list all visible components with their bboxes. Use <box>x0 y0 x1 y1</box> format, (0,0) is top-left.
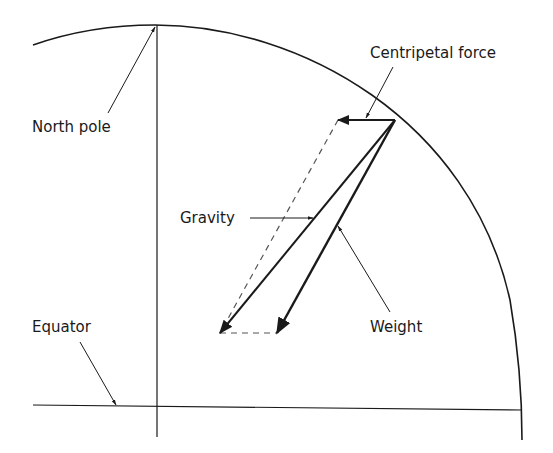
earth-surface-arc <box>33 25 522 440</box>
gravity-vector <box>220 120 395 333</box>
north-pole-leader <box>108 27 155 113</box>
weight-label: Weight <box>370 318 422 336</box>
dashed-construction-line <box>220 120 338 333</box>
north-pole-label: North pole <box>32 118 111 136</box>
equator-label: Equator <box>32 318 92 336</box>
centripetal-force-label: Centripetal force <box>370 44 496 62</box>
equator-leader <box>80 342 116 405</box>
weight-leader <box>338 226 390 312</box>
earth-force-diagram: North pole Centripetal force Gravity Wei… <box>0 0 553 453</box>
gravity-label: Gravity <box>180 209 235 227</box>
centripetal-leader <box>366 67 393 118</box>
equator-line <box>33 405 522 410</box>
weight-vector <box>277 120 395 333</box>
